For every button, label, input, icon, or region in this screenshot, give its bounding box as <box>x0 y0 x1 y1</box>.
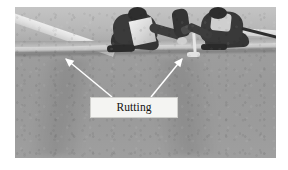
asphalt-grain-texture <box>15 7 276 158</box>
figure-container: Rutting <box>0 0 288 170</box>
rutting-label-text: Rutting <box>116 102 151 114</box>
pavement-photograph <box>15 7 276 158</box>
rutting-label-box: Rutting <box>90 97 178 118</box>
